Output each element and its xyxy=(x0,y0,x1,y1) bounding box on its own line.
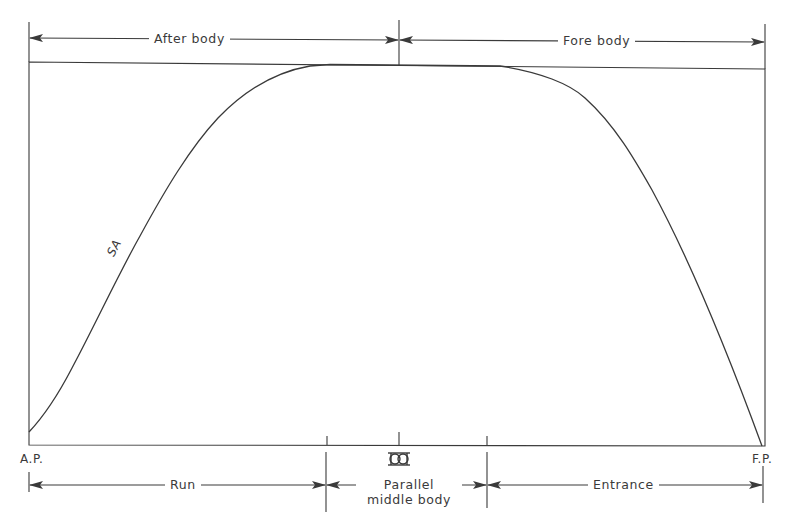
parallel-label-line2: middle body xyxy=(367,492,451,507)
parallel-label-line1: Parallel xyxy=(384,477,434,492)
envelope-rectangle xyxy=(29,62,765,446)
after-body-label: After body xyxy=(149,32,230,46)
fp-label: F.P. xyxy=(752,452,772,466)
sectional-area-diagram xyxy=(0,0,790,532)
fore-body-label: Fore body xyxy=(558,34,635,48)
sectional-area-curve xyxy=(29,65,762,447)
entrance-label: Entrance xyxy=(588,478,659,492)
run-label: Run xyxy=(165,478,201,492)
ap-label: A.P. xyxy=(20,452,43,466)
parallel-middle-body-label: Parallel middle body xyxy=(356,477,462,507)
midship-icon xyxy=(388,453,410,465)
